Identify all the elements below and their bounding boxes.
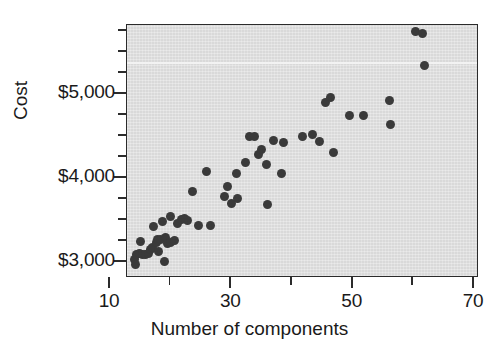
data-point [420,61,429,70]
data-point [250,132,259,141]
x-tick-minor [290,277,292,285]
data-point [233,194,242,203]
y-tick-label: $5,000 [58,81,115,103]
data-point [183,216,192,225]
y-tick-minor [118,29,126,31]
data-point [386,120,395,129]
data-point [385,96,394,105]
data-point [257,145,266,154]
y-tick-major [114,260,126,262]
x-tick-major [472,277,474,288]
x-tick-label: 70 [463,290,484,312]
data-point [418,29,427,38]
data-point [136,237,145,246]
data-point [160,257,169,266]
data-point [206,221,215,230]
x-tick-label: 10 [99,290,120,312]
data-point [170,236,179,245]
y-tick-minor [118,71,126,73]
data-point [232,169,241,178]
y-tick-minor [118,218,126,220]
x-tick-major [108,277,110,288]
y-tick-minor [118,113,126,115]
data-point [326,93,335,102]
x-tick-minor [169,277,171,285]
data-point [223,182,232,191]
data-point [188,187,197,196]
data-point [329,148,338,157]
data-point [263,200,272,209]
x-tick-minor [411,277,413,285]
x-tick-major [229,277,231,288]
x-axis-title: Number of components [0,318,499,340]
data-point [158,217,167,226]
data-point [345,111,354,120]
y-tick-label: $3,000 [58,249,115,271]
data-point [279,138,288,147]
y-axis-title: Cost [10,81,32,120]
data-point [262,160,271,169]
data-point [359,111,368,120]
y-tick-minor [118,239,126,241]
data-point [269,136,278,145]
data-point [202,167,211,176]
y-tick-minor [118,155,126,157]
data-point [131,260,140,269]
x-tick-major [351,277,353,288]
y-tick-minor [118,134,126,136]
data-point [277,169,286,178]
x-tick-label: 30 [220,290,241,312]
x-tick-label: 50 [341,290,362,312]
plot-area [126,24,478,277]
y-tick-major [114,92,126,94]
data-point [298,132,307,141]
y-tick-minor [118,197,126,199]
data-point [154,247,163,256]
data-point [149,222,158,231]
scatter-plot-figure: $3,000$4,000$5,000 10305070 Cost Number … [0,0,499,362]
data-point [315,137,324,146]
data-point [194,221,203,230]
y-tick-major [114,176,126,178]
y-tick-minor [118,50,126,52]
data-point [241,158,250,167]
y-tick-label: $4,000 [58,165,115,187]
